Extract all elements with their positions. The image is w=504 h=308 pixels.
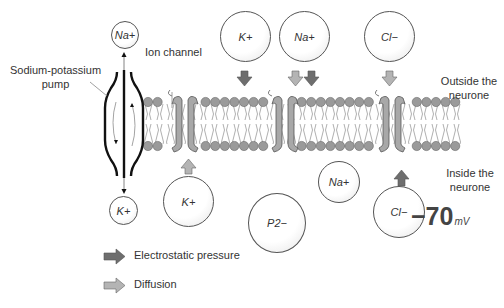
outside-label-line2: neurone xyxy=(436,88,502,102)
inside-neurone-label: Inside the neurone xyxy=(437,166,503,194)
ion-k-outside: K+ xyxy=(220,11,271,62)
ion-cl-outside: Cl− xyxy=(364,11,415,62)
legend-diffusion: Diffusion xyxy=(134,278,177,290)
pump-label-line2: pump xyxy=(8,77,103,91)
arrow-cl-outside-diffusion xyxy=(382,71,397,86)
legend-diffusion-arrow-icon xyxy=(104,278,125,293)
ion-p2-inside: P2− xyxy=(248,193,306,253)
ion-k-inside: K+ xyxy=(163,176,214,227)
ion-channel-label: Ion channel xyxy=(145,45,202,59)
legend-electrostatic: Electrostatic pressure xyxy=(134,249,240,261)
membrane-potential-value: −70 xyxy=(411,202,453,230)
arrow-cl-inside-electrostatic xyxy=(394,170,409,186)
outside-label-line1: Outside the xyxy=(436,74,502,88)
pump-label-line1: Sodium-potassium xyxy=(8,63,103,77)
inside-label-line1: Inside the xyxy=(437,166,503,180)
legend-diffusion-label: Diffusion xyxy=(134,278,177,290)
membrane-potential-unit: mV xyxy=(454,216,469,227)
arrow-k-inside-diffusion xyxy=(181,159,196,174)
ion-na-inside: Na+ xyxy=(318,161,360,203)
legend-electrostatic-label: Electrostatic pressure xyxy=(134,249,240,261)
arrow-k-outside-electrostatic xyxy=(237,71,252,86)
legend-electrostatic-arrow-icon xyxy=(104,249,125,264)
membrane-potential: −70mV xyxy=(411,202,469,231)
inside-label-line2: neurone xyxy=(437,180,503,194)
ion-na-pump-out: Na+ xyxy=(111,21,139,49)
arrow-na-outside-diffusion xyxy=(288,71,303,86)
arrow-na-outside-electrostatic xyxy=(304,71,319,86)
ion-na-outside: Na+ xyxy=(279,11,330,62)
sodium-potassium-pump xyxy=(105,52,143,194)
outside-neurone-label: Outside the neurone xyxy=(436,74,502,102)
ion-k-pump-in: K+ xyxy=(109,196,138,225)
pump-label: Sodium-potassium pump xyxy=(8,63,103,91)
